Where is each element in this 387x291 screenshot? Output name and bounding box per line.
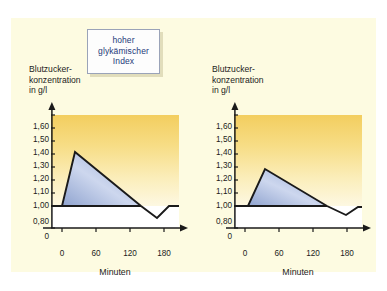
y-axis-title-line-2: konzentration: [29, 75, 125, 86]
x-tick-label: 180: [334, 250, 360, 258]
x-tick-labels: 0 60 120 180: [51, 250, 191, 262]
x-tick-label: 0: [49, 250, 75, 258]
y-tick-label: 1,40: [210, 149, 232, 157]
y-tick-label: 1,10: [210, 188, 232, 196]
x-tick-labels: 0 60 120 180: [234, 250, 374, 262]
y-tick-label: 1,20: [27, 175, 49, 183]
y-tick-label: 1,20: [210, 175, 232, 183]
y-tick-labels: 1,60 1,50 1,40 1,30 1,20 1,10 1,00 0,80 …: [19, 115, 49, 241]
x-tick-label: 120: [300, 250, 326, 258]
y-axis-title-line-1: Blutzucker-: [29, 64, 125, 75]
page-bleed-text: [0, 0, 387, 11]
y-axis-title: Blutzucker- konzentration in g/l: [29, 64, 125, 96]
x-axis-arrow: [363, 225, 371, 232]
plot-area: [51, 115, 179, 228]
chart-high-glycemic-index: hoher glykämischer Index Blutzucker- kon…: [11, 18, 193, 272]
y-tick-labels: 1,60 1,50 1,40 1,30 1,20 1,10 1,00 0,80 …: [202, 115, 232, 241]
y-tick-label: 1,60: [27, 123, 49, 131]
y-axis-title-line-1: Blutzucker-: [212, 64, 308, 75]
x-tick-label: 0: [232, 250, 258, 258]
figure-root: hoher glykämischer Index Blutzucker- kon…: [0, 0, 387, 291]
x-tick-label: 120: [117, 250, 143, 258]
y-tick-label: 1,00: [27, 202, 49, 210]
y-axis-title-line-2: konzentration: [212, 75, 308, 86]
y-tick-label: 0: [27, 233, 49, 241]
y-tick-label: 1,30: [210, 162, 232, 170]
y-axis-arrow: [48, 102, 55, 110]
figure-panel: hoher glykämischer Index Blutzucker- kon…: [11, 18, 376, 272]
y-tick-label: 1,60: [210, 123, 232, 131]
x-axis-arrow: [180, 225, 188, 232]
y-tick-label: 1,50: [210, 136, 232, 144]
y-tick-label: 0,80: [27, 218, 49, 226]
y-axis-title-line-3: in g/l: [29, 85, 125, 96]
x-axis-title: Minuten: [234, 267, 362, 277]
y-tick-label: 1,40: [27, 149, 49, 157]
x-tick-label: 60: [266, 250, 292, 258]
chart-low-glycemic-index: niedriger glykämischer Index Blutzucker-…: [194, 18, 376, 272]
shaded-response-area: [248, 169, 327, 206]
x-axis-title: Minuten: [51, 267, 179, 277]
plot-area: [234, 115, 362, 228]
x-tick-label: 180: [151, 250, 177, 258]
y-tick-label: 1,50: [27, 136, 49, 144]
x-tick-label: 60: [83, 250, 109, 258]
plot-graphics: [234, 115, 362, 228]
plot-graphics: [51, 115, 179, 228]
y-tick-label: 1,00: [210, 202, 232, 210]
y-axis-arrow: [231, 102, 238, 110]
y-axis-title: Blutzucker- konzentration in g/l: [212, 64, 308, 96]
y-tick-label: 1,30: [27, 162, 49, 170]
y-tick-label: 1,10: [27, 188, 49, 196]
callout-line-1: hoher: [88, 35, 159, 46]
callout-line-2: glykämischer: [88, 46, 159, 57]
y-tick-label: 0: [210, 233, 232, 241]
y-tick-label: 0,80: [210, 218, 232, 226]
y-axis-title-line-3: in g/l: [212, 85, 308, 96]
